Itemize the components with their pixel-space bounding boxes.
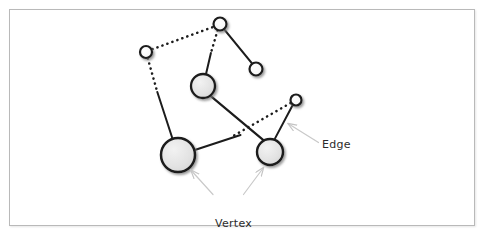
annotation-label-edge: Edge <box>322 139 351 152</box>
leader-line-edge <box>288 124 319 143</box>
edge-n1-n2 <box>152 27 214 50</box>
edges-layer <box>148 27 293 150</box>
figure-root: Edge Vertex or node <box>0 0 484 236</box>
graph-node-n5[interactable] <box>161 138 195 172</box>
graph-node-n2[interactable] <box>214 18 227 31</box>
annotation-label-vertex: Vertex or node <box>215 193 259 236</box>
edge-n4-n6 <box>210 96 264 141</box>
graph-node-n4[interactable] <box>191 74 215 98</box>
edge-n5-n6 <box>195 135 241 150</box>
nodes-layer <box>140 18 302 173</box>
annotation-label-vertex-line1: Vertex <box>215 218 259 231</box>
edge-n1-n5-dotted <box>148 58 158 92</box>
leader-line-vertex-right <box>244 168 264 195</box>
edge-n2-n3 <box>225 30 252 63</box>
edge-n2-n4-dotted <box>211 30 218 53</box>
graph-node-n3[interactable] <box>250 63 263 76</box>
edge-n2-n4-solid <box>206 53 211 74</box>
leader-line-vertex-left <box>191 170 213 195</box>
graph-node-n1[interactable] <box>140 46 152 58</box>
graph-node-n6[interactable] <box>257 139 283 165</box>
edge-n1-n5-solid <box>157 92 172 139</box>
graph-node-n7[interactable] <box>291 95 302 106</box>
